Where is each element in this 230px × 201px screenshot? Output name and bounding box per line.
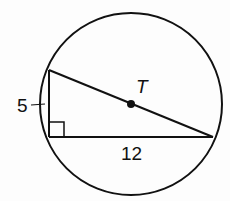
center-point [127,100,135,108]
long-leg-label: 12 [121,143,142,164]
short-leg-label: 5 [17,95,28,116]
label-pointer [31,104,45,105]
center-label: T [136,76,149,97]
circle-diagram: T 5 12 [0,0,230,201]
right-angle-marker [49,122,64,137]
